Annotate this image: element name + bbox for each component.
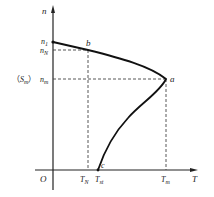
Tst-label: Tst bbox=[95, 175, 104, 185]
origin-label: O bbox=[40, 174, 47, 184]
c-point bbox=[97, 169, 100, 172]
y-axis-label: n bbox=[42, 6, 47, 16]
point-b-label: b bbox=[86, 38, 91, 48]
x-axis-arrow-icon bbox=[190, 168, 198, 172]
y-axis-arrow-icon bbox=[51, 5, 55, 13]
x-axis-label: T bbox=[192, 174, 198, 184]
point-c-label: c bbox=[101, 161, 105, 170]
torque-speed-diagram: n T O n1 nN nm （Sm） TN Tst Tm b a c bbox=[0, 0, 214, 197]
TN-label: TN bbox=[80, 175, 89, 185]
nm-label: nm bbox=[40, 75, 49, 85]
Tm-label: Tm bbox=[161, 175, 170, 185]
point-a-label: a bbox=[170, 74, 175, 84]
sm-label: （Sm） bbox=[12, 75, 36, 85]
nN-label: nN bbox=[40, 46, 49, 56]
n1-point bbox=[51, 40, 54, 43]
characteristic-curve bbox=[53, 42, 166, 170]
